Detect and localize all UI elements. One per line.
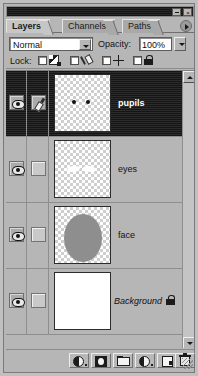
transparency-icon — [49, 55, 61, 66]
eye-icon — [12, 298, 23, 305]
folder-icon — [117, 357, 130, 366]
face-oval-shape — [64, 214, 102, 262]
add-layer-style-button[interactable] — [69, 353, 89, 368]
lock-transparent-checkbox[interactable] — [38, 56, 47, 65]
move-cross-icon — [113, 55, 125, 66]
tab-paths[interactable]: Paths — [122, 19, 160, 33]
layer-thumbnail[interactable] — [54, 272, 111, 330]
transparency-checker — [55, 75, 110, 131]
active-layer-toggle[interactable] — [31, 161, 46, 176]
add-layer-mask-button[interactable] — [91, 353, 111, 368]
layer-thumbnail[interactable] — [54, 74, 111, 132]
opacity-value: 100% — [142, 39, 165, 51]
opacity-slider-button[interactable] — [174, 37, 186, 51]
palette-menu-icon[interactable] — [180, 20, 192, 32]
eye-icon — [12, 166, 23, 173]
lock-row: Lock: — [6, 53, 194, 69]
layers-palette: × Paths Channels Layers Normal Opacity: … — [3, 3, 195, 373]
layer-list: pupils eyes — [6, 70, 194, 348]
lock-all[interactable] — [133, 55, 153, 65]
lock-position[interactable] — [102, 55, 125, 66]
layer-name[interactable]: pupils — [118, 98, 145, 108]
pupil-left-shape — [72, 100, 76, 104]
visibility-cell[interactable] — [6, 137, 27, 202]
brush-icon — [34, 98, 45, 109]
table-row[interactable]: pupils — [6, 71, 182, 137]
layer-style-icon — [73, 356, 84, 367]
padlock-icon — [166, 295, 175, 305]
edit-mode-cell[interactable] — [28, 137, 49, 202]
eye-icon — [12, 100, 23, 107]
tab-channels[interactable]: Channels — [62, 19, 115, 33]
chevron-down-icon[interactable] — [79, 39, 91, 50]
visibility-toggle[interactable] — [9, 95, 24, 110]
visibility-toggle[interactable] — [9, 293, 24, 308]
pupil-right-shape — [86, 100, 90, 104]
brush-icon — [81, 55, 93, 66]
table-row[interactable]: Background — [6, 269, 182, 335]
close-button[interactable]: × — [183, 8, 192, 16]
title-bar-buttons: × — [172, 8, 192, 16]
tab-layers-label: Layers — [12, 21, 41, 31]
layer-name[interactable]: face — [118, 230, 135, 240]
edit-mode-cell[interactable] — [28, 269, 49, 334]
scroll-down-arrow-icon[interactable] — [183, 337, 194, 348]
active-layer-toggle[interactable] — [31, 293, 46, 308]
visibility-cell[interactable] — [6, 71, 27, 136]
active-layer-toggle[interactable] — [31, 95, 46, 110]
eye-icon — [12, 232, 23, 239]
vertical-scrollbar[interactable] — [182, 71, 194, 348]
table-row[interactable]: face — [6, 203, 182, 269]
tab-paths-label: Paths — [128, 21, 151, 31]
edit-mode-cell[interactable] — [28, 203, 49, 268]
palette-title-bar[interactable]: × — [6, 6, 194, 17]
blend-mode-row: Normal Opacity: 100% — [6, 35, 194, 52]
scroll-up-arrow-icon[interactable] — [183, 71, 194, 83]
opacity-input[interactable]: 100% — [139, 37, 172, 51]
lock-transparent-pixels[interactable] — [38, 55, 61, 66]
padlock-icon — [144, 55, 153, 65]
resize-grip[interactable] — [182, 358, 193, 369]
tab-channels-label: Channels — [68, 21, 106, 31]
white-fill — [55, 273, 110, 329]
lock-all-checkbox[interactable] — [133, 56, 142, 65]
opacity-label: Opacity: — [98, 39, 131, 49]
lock-position-checkbox[interactable] — [102, 56, 111, 65]
close-icon: × — [185, 11, 191, 16]
lock-label: Lock: — [10, 56, 32, 66]
lock-image-checkbox[interactable] — [70, 56, 79, 65]
adjustment-layer-icon — [139, 356, 150, 367]
palette-bottom-toolbar — [6, 349, 194, 370]
blend-mode-select[interactable]: Normal — [9, 37, 93, 51]
table-row[interactable]: eyes — [6, 137, 182, 203]
new-layer-button[interactable] — [157, 353, 177, 368]
tab-layers[interactable]: Layers — [6, 19, 50, 33]
palette-tab-row: Paths Channels Layers — [6, 18, 194, 33]
layer-thumbnail[interactable] — [54, 140, 111, 198]
visibility-cell[interactable] — [6, 269, 27, 334]
lock-image-pixels[interactable] — [70, 55, 93, 66]
layer-name[interactable]: Background — [114, 296, 162, 306]
edit-mode-cell[interactable] — [28, 71, 49, 136]
new-layer-set-button[interactable] — [113, 353, 133, 368]
blend-mode-value: Normal — [13, 39, 42, 51]
layer-thumbnail[interactable] — [54, 206, 111, 264]
visibility-toggle[interactable] — [9, 161, 24, 176]
scrollbar-track[interactable] — [183, 83, 194, 337]
minimize-button[interactable] — [172, 8, 181, 16]
visibility-toggle[interactable] — [9, 227, 24, 242]
visibility-cell[interactable] — [6, 203, 27, 268]
new-adjustment-layer-button[interactable] — [135, 353, 155, 368]
active-layer-toggle[interactable] — [31, 227, 46, 242]
layer-name[interactable]: eyes — [118, 164, 137, 174]
